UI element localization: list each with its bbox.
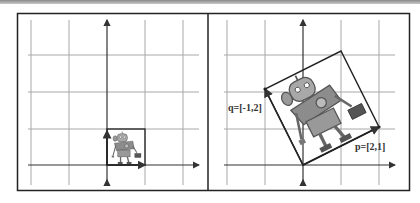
figure-canvas: q=[-1,2] p=[2,1] [0,0,420,203]
label-p: p=[2,1] [355,141,385,152]
right-panel: q=[-1,2] p=[2,1] [224,20,395,185]
left-panel [28,20,199,185]
label-q: q=[-1,2] [228,102,262,113]
robot-image-original [112,132,141,164]
outer-frame [18,14,410,191]
left-grid [28,20,199,185]
